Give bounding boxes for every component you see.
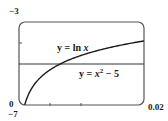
x-max-label: 0.02 xyxy=(148,102,164,112)
parabola-equation-label: y = x2 − 5 xyxy=(79,67,119,79)
y-max-label: −3 xyxy=(9,6,19,16)
ln-equation-label: y = ln x xyxy=(57,42,89,53)
y-min-label: −7 xyxy=(8,109,18,119)
chart-figure: −3 0 −7 0.02 y = ln x y = x2 − 5 xyxy=(0,0,168,121)
x-min-label: 0 xyxy=(9,99,14,109)
